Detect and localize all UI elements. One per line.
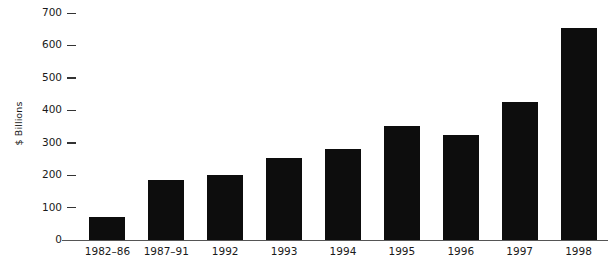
y-tick-label: 300 bbox=[42, 136, 62, 148]
x-axis-tick-label: 1994 bbox=[314, 245, 373, 257]
bar bbox=[325, 149, 361, 240]
y-tick-label: 0 bbox=[55, 233, 62, 245]
bars-layer bbox=[78, 0, 608, 241]
y-axis-title: $ Billions bbox=[13, 84, 24, 164]
bar-chart: $ Billions 0100200300400500600700 1982–8… bbox=[0, 0, 616, 277]
y-tick-label: 700 bbox=[42, 6, 62, 18]
x-axis-tick-label: 1987–91 bbox=[137, 245, 196, 257]
bar bbox=[148, 180, 184, 240]
x-axis-tick-label: 1993 bbox=[255, 245, 314, 257]
y-tick-mark bbox=[67, 110, 76, 111]
bar bbox=[266, 158, 302, 240]
x-axis-tick-label: 1996 bbox=[431, 245, 490, 257]
y-tick-mark bbox=[67, 77, 76, 78]
y-tick-label: 400 bbox=[42, 103, 62, 115]
bar bbox=[89, 217, 125, 240]
bar bbox=[207, 175, 243, 240]
x-axis-tick-label: 1998 bbox=[549, 245, 608, 257]
x-axis-tick-label: 1997 bbox=[490, 245, 549, 257]
x-axis-tick-label: 1995 bbox=[372, 245, 431, 257]
y-tick-mark bbox=[67, 45, 76, 46]
y-tick-label: 600 bbox=[42, 38, 62, 50]
bar bbox=[502, 102, 538, 240]
y-tick-mark bbox=[67, 175, 76, 176]
y-tick-mark bbox=[67, 13, 76, 14]
bar bbox=[561, 28, 597, 240]
x-axis-labels: 1982–861987–9119921993199419951996199719… bbox=[78, 245, 608, 265]
y-tick-mark bbox=[67, 207, 76, 208]
bar bbox=[443, 135, 479, 240]
x-axis-tick-label: 1992 bbox=[196, 245, 255, 257]
y-tick-label: 200 bbox=[42, 168, 62, 180]
bar bbox=[384, 126, 420, 240]
y-tick-mark bbox=[67, 142, 76, 143]
y-tick-label: 100 bbox=[42, 201, 62, 213]
x-axis-tick-label: 1982–86 bbox=[78, 245, 137, 257]
y-tick-label: 500 bbox=[42, 71, 62, 83]
